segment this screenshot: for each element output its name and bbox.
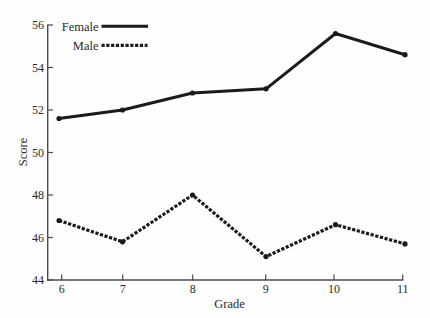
data-point-male [402,241,407,246]
y-tick-label: 50 [32,146,44,160]
y-tick-label: 52 [32,103,44,117]
data-point-male [120,239,125,244]
legend-item-female: Female [62,20,148,34]
x-tick-label: 7 [120,282,126,296]
line-female [59,34,405,119]
legend: Female Male [62,20,148,53]
x-ticks: 67891011 [59,275,409,296]
line-chart: 44464850525456 67891011 Grade Score Fema… [0,0,430,318]
data-point-female [56,116,61,121]
series-male [56,192,407,259]
y-ticks: 44464850525456 [32,18,53,287]
series-group [56,31,407,259]
line-male [59,195,405,257]
legend-label-female: Female [62,20,99,34]
legend-label-male: Male [73,39,99,53]
data-point-female [263,86,268,91]
y-tick-label: 48 [32,188,44,202]
y-tick-label: 46 [32,231,44,245]
data-point-female [333,31,338,36]
data-point-female [190,90,195,95]
y-tick-label: 54 [32,61,44,75]
y-tick-label: 56 [32,18,44,32]
y-tick-label: 44 [32,273,44,287]
data-point-male [263,254,268,259]
x-tick-label: 9 [263,282,269,296]
data-point-male [56,218,61,223]
x-tick-label: 11 [397,282,409,296]
x-tick-label: 10 [328,282,340,296]
x-tick-label: 6 [59,282,65,296]
axes: 44464850525456 67891011 Grade Score [16,18,409,311]
x-axis-title: Grade [214,297,245,311]
x-tick-label: 8 [190,282,196,296]
data-point-female [402,52,407,57]
data-point-male [333,222,338,227]
y-axis-title: Score [16,137,30,166]
data-point-male [190,192,195,197]
data-point-female [120,107,125,112]
legend-item-male: Male [73,39,148,53]
